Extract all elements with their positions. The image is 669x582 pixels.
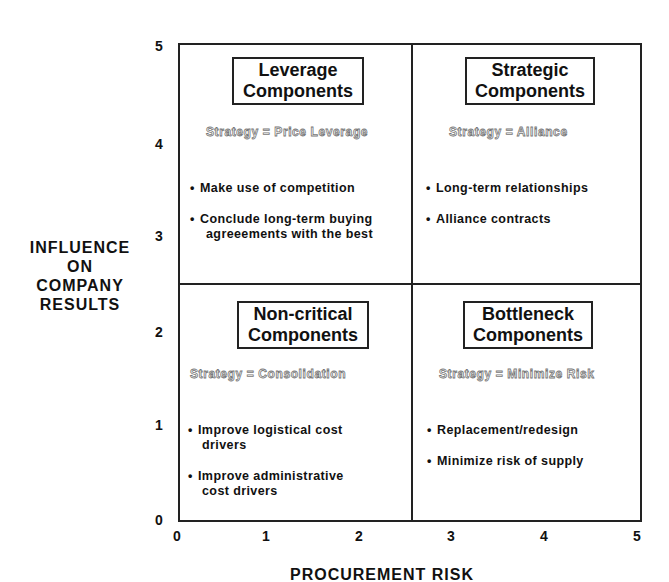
quadrant-title-box: Bottleneck Components (463, 301, 593, 349)
x-tick-2: 2 (355, 528, 363, 544)
quadrant-strategic: Strategic Components Strategy = Alliance… (413, 45, 642, 283)
y-tick-5: 5 (155, 38, 163, 54)
action-text: Long-term relationships (436, 181, 588, 195)
quadrant-title-box: Strategic Components (465, 57, 595, 105)
strategy-label: Strategy = Minimize Risk (439, 367, 594, 381)
x-axis-label: PROCUREMENT RISK (290, 566, 474, 582)
action-item: Conclude long-term buying agreeements wi… (190, 212, 373, 242)
quadrant-title-line: Non-critical (243, 304, 363, 325)
strategy-label: Strategy = Alliance (449, 125, 568, 139)
quadrant-title-line: Bottleneck (469, 304, 587, 325)
action-text: Make use of competition (200, 181, 355, 195)
quadrant-non-critical: Non-critical Components Strategy = Conso… (180, 285, 411, 522)
y-axis-label-line: COMPANY (10, 276, 150, 295)
x-tick-4: 4 (540, 528, 548, 544)
y-axis-label-line: ON (10, 257, 150, 276)
action-item: Make use of competition (190, 181, 373, 196)
quadrant-title-line: Components (471, 81, 589, 102)
y-tick-4: 4 (155, 136, 163, 152)
quadrant-title-line: Components (238, 81, 358, 102)
action-list: Make use of competition Conclude long-te… (190, 181, 373, 258)
x-tick-5: 5 (633, 528, 641, 544)
action-item: Minimize risk of supply (427, 454, 584, 469)
y-axis-label-line: INFLUENCE (10, 238, 150, 257)
x-tick-0: 0 (173, 528, 181, 544)
y-tick-2: 2 (155, 324, 163, 340)
strategy-label: Strategy = Consolidation (190, 367, 346, 381)
quadrant-bottleneck: Bottleneck Components Strategy = Minimiz… (413, 285, 642, 522)
quadrant-title-line: Components (469, 325, 587, 346)
strategy-label: Strategy = Price Leverage (206, 125, 368, 139)
action-item: Improve administrative cost drivers (188, 469, 344, 499)
quadrant-title-box: Non-critical Components (237, 301, 369, 349)
quadrant-title-box: Leverage Components (232, 57, 364, 105)
action-text: Replacement/redesign (437, 423, 578, 437)
action-text: cost drivers (198, 484, 344, 499)
action-list: Long-term relationships Alliance contrac… (426, 181, 588, 243)
action-list: Improve logistical cost drivers Improve … (188, 423, 344, 515)
y-tick-3: 3 (155, 228, 163, 244)
quadrant-title-line: Strategic (471, 60, 589, 81)
action-text: Minimize risk of supply (437, 454, 584, 468)
action-item: Long-term relationships (426, 181, 588, 196)
quadrant-title-line: Leverage (238, 60, 358, 81)
action-text: agreeements with the best (200, 227, 373, 242)
quadrant-title-line: Components (243, 325, 363, 346)
x-tick-1: 1 (262, 528, 270, 544)
kraljic-matrix: Leverage Components Strategy = Price Lev… (178, 43, 642, 522)
quadrant-leverage: Leverage Components Strategy = Price Lev… (180, 45, 411, 283)
action-list: Replacement/redesign Minimize risk of su… (427, 423, 584, 485)
y-axis-label: INFLUENCE ON COMPANY RESULTS (10, 238, 150, 314)
action-item: Improve logistical cost drivers (188, 423, 344, 453)
action-text: drivers (198, 438, 344, 453)
x-tick-3: 3 (447, 528, 455, 544)
action-text: Conclude long-term buying (200, 212, 373, 227)
action-text: Improve administrative (198, 469, 344, 484)
action-item: Alliance contracts (426, 212, 588, 227)
y-axis-label-line: RESULTS (10, 295, 150, 314)
action-text: Improve logistical cost (198, 423, 344, 438)
action-item: Replacement/redesign (427, 423, 584, 438)
y-tick-1: 1 (155, 417, 163, 433)
action-text: Alliance contracts (436, 212, 551, 226)
y-tick-0: 0 (155, 512, 163, 528)
